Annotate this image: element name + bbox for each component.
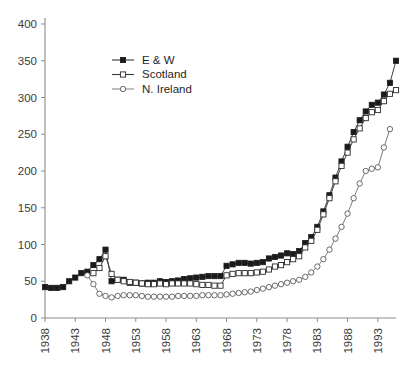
data-point xyxy=(327,196,332,201)
data-point xyxy=(188,281,193,286)
data-point xyxy=(345,150,350,155)
data-point xyxy=(224,292,229,297)
data-point xyxy=(321,212,326,217)
data-point xyxy=(278,262,283,267)
data-point xyxy=(181,293,186,298)
data-point xyxy=(236,260,241,265)
data-point xyxy=(309,238,314,243)
data-point xyxy=(266,267,271,272)
y-tick-label: 0 xyxy=(31,312,37,324)
data-point xyxy=(387,126,392,131)
data-point xyxy=(103,247,108,252)
data-point xyxy=(163,282,168,287)
data-point xyxy=(169,294,174,299)
data-point xyxy=(218,293,223,298)
data-point xyxy=(200,293,205,298)
data-point xyxy=(291,251,296,256)
data-point xyxy=(296,277,301,282)
data-point xyxy=(194,282,199,287)
data-point xyxy=(163,294,168,299)
data-point xyxy=(115,293,120,298)
data-point xyxy=(357,126,362,131)
data-point xyxy=(97,265,102,270)
data-point xyxy=(242,260,247,265)
legend-marker xyxy=(120,86,125,91)
data-point xyxy=(206,293,211,298)
data-point xyxy=(121,293,126,298)
data-point xyxy=(327,247,332,252)
data-point xyxy=(200,282,205,287)
data-point xyxy=(387,91,392,96)
legend-marker xyxy=(120,72,125,77)
data-point xyxy=(393,88,398,93)
data-point xyxy=(91,281,96,286)
data-point xyxy=(303,274,308,279)
x-axis-group: 1938194319481953195819631968197319781983… xyxy=(39,318,396,354)
data-point xyxy=(151,282,156,287)
data-point xyxy=(188,293,193,298)
data-point xyxy=(85,273,90,278)
data-point xyxy=(103,254,108,259)
data-series-group xyxy=(42,58,398,300)
data-point xyxy=(224,273,229,278)
data-point xyxy=(260,286,265,291)
x-tick-label: 1983 xyxy=(311,328,323,354)
data-point xyxy=(242,271,247,276)
data-point xyxy=(369,102,374,107)
data-point xyxy=(236,271,241,276)
data-point xyxy=(103,293,108,298)
data-point xyxy=(194,275,199,280)
x-tick-label: 1993 xyxy=(372,328,384,354)
data-point xyxy=(297,254,302,259)
data-point xyxy=(375,165,380,170)
data-point xyxy=(345,211,350,216)
data-point xyxy=(284,251,289,256)
series-path xyxy=(93,90,396,286)
data-point xyxy=(303,245,308,250)
legend-label: E & W xyxy=(142,54,175,66)
data-point xyxy=(357,118,362,123)
data-point xyxy=(212,274,217,279)
data-point xyxy=(230,262,235,267)
data-point xyxy=(266,284,271,289)
legend-item-scotland: Scotland xyxy=(112,68,187,80)
x-tick-label: 1948 xyxy=(100,328,112,354)
data-point xyxy=(363,109,368,114)
y-tick-label: 400 xyxy=(18,18,37,30)
legend-marker xyxy=(120,57,125,62)
x-tick-label: 1943 xyxy=(69,328,81,354)
data-point xyxy=(248,261,253,266)
data-point xyxy=(369,110,374,115)
data-point xyxy=(48,285,53,290)
data-point xyxy=(315,227,320,232)
data-point xyxy=(212,283,217,288)
legend-item-n-ireland: N. Ireland xyxy=(112,83,192,95)
x-tick-label: 1953 xyxy=(130,328,142,354)
data-point xyxy=(200,274,205,279)
data-point xyxy=(266,256,271,261)
data-point xyxy=(42,285,47,290)
data-point xyxy=(260,260,265,265)
data-point xyxy=(109,279,114,284)
data-point xyxy=(290,279,295,284)
data-point xyxy=(194,293,199,298)
data-point xyxy=(73,275,78,280)
data-point xyxy=(188,276,193,281)
data-point xyxy=(145,294,150,299)
chart-legend: E & WScotlandN. Ireland xyxy=(112,54,192,95)
x-tick-label: 1968 xyxy=(221,328,233,354)
data-point xyxy=(254,270,259,275)
x-tick-labels: 1938194319481953195819631968197319781983… xyxy=(39,318,384,354)
data-point xyxy=(145,282,150,287)
data-point xyxy=(278,253,283,258)
data-point xyxy=(151,294,156,299)
data-point xyxy=(127,293,132,298)
data-point xyxy=(272,254,277,259)
data-point xyxy=(230,271,235,276)
y-tick-label: 50 xyxy=(24,275,37,287)
data-point xyxy=(97,257,102,262)
x-tick-label: 1938 xyxy=(39,328,51,354)
data-point xyxy=(248,289,253,294)
x-tick-label: 1978 xyxy=(281,328,293,354)
data-point xyxy=(309,270,314,275)
